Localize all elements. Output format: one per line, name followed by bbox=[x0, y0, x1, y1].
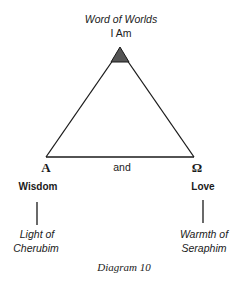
love-label: Love bbox=[191, 181, 214, 192]
wisdom-label: Wisdom bbox=[19, 181, 58, 192]
left-sub-label-line2: Cherubim bbox=[13, 242, 59, 254]
top-title: Word of Worlds bbox=[85, 13, 157, 25]
left-edge bbox=[46, 50, 120, 157]
right-sub-label-line1: Warmth of bbox=[180, 228, 228, 240]
alpha-symbol: A bbox=[41, 160, 50, 176]
base-label: and bbox=[113, 161, 131, 173]
right-edge bbox=[120, 50, 194, 157]
omega-symbol: Ω bbox=[192, 160, 202, 176]
apex-triangle-icon bbox=[111, 47, 129, 62]
top-subtitle: I Am bbox=[110, 27, 131, 39]
left-sub-label-line1: Light of bbox=[20, 228, 54, 240]
right-sub-label-line2: Seraphim bbox=[182, 242, 227, 254]
diagram-caption: Diagram 10 bbox=[97, 261, 150, 273]
